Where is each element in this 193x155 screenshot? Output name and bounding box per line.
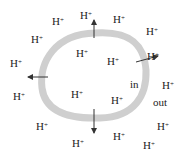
- proton-label: H+: [52, 16, 64, 27]
- label-in: in: [130, 79, 139, 90]
- proton-label: H+: [111, 95, 123, 106]
- proton-label: H+: [113, 14, 125, 25]
- proton-label: H+: [76, 48, 88, 59]
- proton-label: H+: [72, 138, 84, 149]
- membrane-diagram: H+H+H+H+H+H+H+H+H+H+H+H+H+H+H+H+H+H+ in …: [0, 0, 193, 155]
- proton-label: H+: [10, 58, 22, 69]
- proton-label: H+: [71, 89, 83, 100]
- proton-label: H+: [31, 34, 43, 45]
- proton-label: H+: [157, 121, 169, 132]
- label-out: out: [153, 97, 167, 108]
- cell-membrane: [42, 33, 146, 118]
- proton-label: H+: [162, 80, 174, 91]
- proton-label: H+: [113, 131, 125, 142]
- proton-label: H+: [13, 91, 25, 102]
- proton-label: H+: [80, 10, 92, 21]
- proton-label: H+: [146, 26, 158, 37]
- proton-label: H+: [147, 51, 159, 62]
- proton-label: H+: [107, 56, 119, 67]
- proton-label: H+: [36, 121, 48, 132]
- proton-label: H+: [143, 140, 155, 151]
